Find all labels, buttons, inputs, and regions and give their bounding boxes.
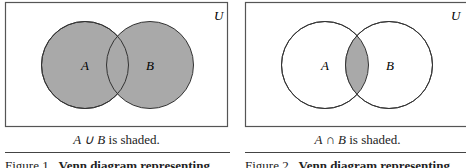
set-a-label: A	[320, 58, 329, 73]
caption-expression: A ∪ B	[73, 132, 105, 147]
set-a-label: A	[80, 58, 89, 73]
figure-title: Figure 1 Venn diagram representing	[5, 158, 210, 168]
figure-title-text: Venn diagram representing	[298, 158, 449, 168]
figure-title-text: Venn diagram representing	[58, 158, 209, 168]
caption: A ∩ B is shaded.	[241, 132, 466, 148]
universe-label: U	[214, 8, 225, 23]
caption: A ∪ B is shaded.	[0, 132, 233, 148]
caption-text: is shaded.	[346, 132, 401, 147]
figure-1: U A B A ∪ B is shaded. Figure 1 Venn dia…	[0, 0, 233, 168]
divider	[5, 152, 230, 153]
set-b-label: B	[146, 58, 154, 73]
figure-2: U A B A ∩ B is shaded. Figure 2 Venn dia…	[233, 0, 466, 168]
set-b-label: B	[386, 58, 394, 73]
figure-number: Figure 2	[245, 158, 289, 168]
venn-intersection-diagram: U A B	[233, 0, 466, 130]
caption-expression: A ∩ B	[314, 132, 346, 147]
figure-title: Figure 2 Venn diagram representing	[245, 158, 450, 168]
universe-label: U	[451, 8, 462, 23]
caption-text: is shaded.	[105, 132, 160, 147]
divider	[245, 152, 466, 153]
figure-number: Figure 1	[5, 158, 49, 168]
venn-union-diagram: U A B	[0, 0, 233, 130]
